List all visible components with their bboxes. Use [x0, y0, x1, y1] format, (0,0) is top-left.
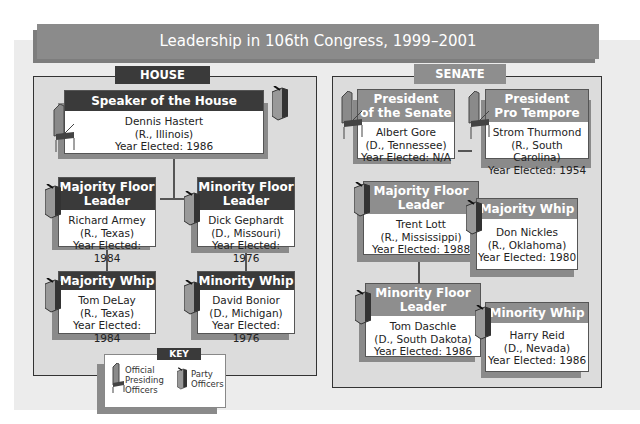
key-legend: Official Presiding Officers Party Office…	[104, 354, 226, 408]
chair-icon	[467, 91, 491, 139]
chair-icon	[111, 363, 125, 393]
leader-party: (R., Texas)	[59, 227, 155, 240]
title-line: Leader	[59, 194, 155, 208]
title-line: Majority Floor	[364, 184, 478, 198]
key-presiding-line: Officers	[125, 385, 164, 395]
whip-title: Majority Whip	[477, 199, 577, 219]
podium-icon	[177, 367, 187, 391]
leader-year: Year Elected: 1984	[59, 239, 155, 264]
whip-title: Majority Whip	[59, 272, 155, 290]
speaker-box: Speaker of the House Dennis Hastert (R.,…	[64, 90, 264, 154]
title-line: Leader	[364, 198, 478, 212]
pro-tempore-party: (R., South Carolina)	[486, 139, 588, 164]
leader-year: Year Elected: 1986	[366, 345, 480, 358]
senate-minority-whip-box: Minority Whip Harry Reid (D., Nevada) Ye…	[485, 302, 589, 372]
podium-icon	[45, 278, 61, 314]
speaker-title: Speaker of the House	[65, 91, 263, 111]
key-label: KEY	[157, 348, 201, 360]
leader-party: (R., Mississippi)	[364, 231, 478, 244]
leader-year: Year Elected: 1988	[364, 243, 478, 256]
whip-name: David Bonior	[198, 294, 294, 307]
senate-majority-whip-box: Majority Whip Don Nickles (R., Oklahoma)…	[476, 198, 578, 270]
chair-icon	[340, 91, 364, 139]
leader-name: Tom Daschle	[366, 320, 480, 333]
house-label: HOUSE	[115, 66, 210, 84]
title-line: President	[358, 92, 454, 106]
house-minority-whip-box: Minority Whip David Bonior (D., Michigan…	[197, 271, 295, 334]
podium-icon	[184, 191, 200, 227]
podium-icon	[475, 305, 491, 341]
title-line: Majority Floor	[59, 180, 155, 194]
whip-year: Year Elected: 1984	[59, 319, 155, 344]
page-title: Leadership in 106th Congress, 1999–2001	[37, 24, 599, 59]
title-line: of the Senate	[358, 106, 454, 120]
whip-party: (D., Nevada)	[486, 342, 588, 355]
senate-minority-leader-box: Minority Floor Leader Tom Daschle (D., S…	[365, 283, 481, 357]
title-line: Pro Tempore	[486, 106, 588, 120]
key-presiding-line: Presiding	[125, 375, 164, 385]
leader-party: (D., Missouri)	[198, 227, 294, 240]
whip-party: (R., Oklahoma)	[477, 239, 577, 252]
senate-label: SENATE	[414, 64, 506, 84]
title-line: Leader	[366, 300, 480, 314]
president-party: (D., Tennessee)	[358, 139, 454, 152]
title-line: Leader	[198, 194, 294, 208]
whip-name: Harry Reid	[486, 329, 588, 342]
connector	[458, 150, 472, 152]
key-party-line: Officers	[191, 379, 224, 389]
title-line: President	[486, 92, 588, 106]
whip-party: (D., Michigan)	[198, 307, 294, 320]
pro-tempore-name: Strom Thurmond	[486, 126, 588, 139]
podium-icon	[45, 184, 61, 220]
president-year: Year Elected: N/A	[358, 151, 454, 164]
speaker-year: Year Elected: 1986	[65, 140, 263, 153]
whip-party: (R., Texas)	[59, 307, 155, 320]
key-party-line: Party	[191, 369, 224, 379]
leader-year: Year Elected: 1976	[198, 239, 294, 264]
whip-title: Minority Whip	[198, 272, 294, 290]
house-majority-leader-box: Majority Floor Leader Richard Armey (R.,…	[58, 177, 156, 247]
podium-icon	[272, 86, 288, 122]
leader-name: Dick Gephardt	[198, 214, 294, 227]
whip-name: Tom DeLay	[59, 294, 155, 307]
pro-tempore-year: Year Elected: 1954	[486, 164, 588, 177]
house-minority-leader-box: Minority Floor Leader Dick Gephardt (D.,…	[197, 177, 295, 247]
connector	[173, 158, 175, 198]
senate-pro-tempore-box: President Pro Tempore Strom Thurmond (R.…	[485, 89, 589, 159]
podium-icon	[466, 200, 482, 236]
president-name: Albert Gore	[358, 126, 454, 139]
whip-year: Year Elected: 1976	[198, 319, 294, 344]
leader-party: (D., South Dakota)	[366, 333, 480, 346]
whip-year: Year Elected: 1986	[486, 354, 588, 367]
leader-name: Trent Lott	[364, 218, 478, 231]
podium-icon	[184, 280, 200, 316]
senate-majority-leader-box: Majority Floor Leader Trent Lott (R., Mi…	[363, 181, 479, 255]
speaker-name: Dennis Hastert	[65, 115, 263, 128]
podium-icon	[355, 290, 371, 326]
title-line: Minority Floor	[198, 180, 294, 194]
whip-name: Don Nickles	[477, 226, 577, 239]
key-presiding-line: Official	[125, 365, 164, 375]
podium-icon	[354, 182, 370, 218]
leader-name: Richard Armey	[59, 214, 155, 227]
house-majority-whip-box: Majority Whip Tom DeLay (R., Texas) Year…	[58, 271, 156, 334]
senate-president-box: President of the Senate Albert Gore (D.,…	[357, 89, 455, 159]
whip-year: Year Elected: 1980	[477, 251, 577, 264]
speaker-party: (R., Illinois)	[65, 128, 263, 141]
chair-icon	[52, 104, 76, 152]
title-line: Minority Floor	[366, 286, 480, 300]
whip-title: Minority Whip	[486, 303, 588, 323]
